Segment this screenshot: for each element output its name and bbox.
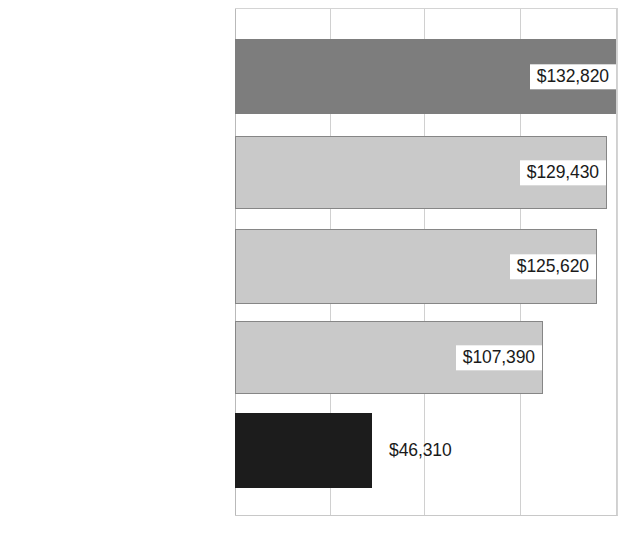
value-label-advertising-marketing-promotions-public-relations-and-sales-managers: $132,820 (530, 64, 616, 89)
category-label-row: Fundraising managers (0, 320, 229, 393)
bar-row: $132,820 (235, 39, 617, 114)
bar-total-all-occupations[interactable] (235, 413, 372, 488)
category-label-row: Total, all occupations (0, 412, 229, 487)
value-label-fundraising-managers: $107,390 (456, 345, 542, 370)
category-label-row: Public relations managers (0, 135, 229, 208)
category-label-row: Public relations and fundraising manager… (0, 228, 229, 303)
value-label-total-all-occupations: $46,310 (382, 438, 459, 463)
plot-area: $132,820 $129,430 $125,620 $107,390 $46,… (235, 8, 618, 516)
value-label-public-relations-managers: $129,430 (520, 160, 606, 185)
value-label-public-relations-and-fundraising-managers: $125,620 (510, 254, 596, 279)
category-label-row: Advertising, marketing, promotions, publ… (0, 38, 229, 113)
bar-row: $129,430 (235, 136, 617, 209)
bar-row: $107,390 (235, 321, 617, 394)
bar-row: $46,310 (235, 413, 617, 488)
bar-row: $125,620 (235, 229, 617, 304)
bar-chart: Advertising, marketing, promotions, publ… (0, 0, 627, 533)
